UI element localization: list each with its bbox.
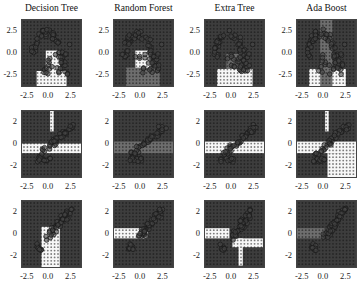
- x-tick-label: 2.5: [248, 271, 259, 281]
- y-tick-label: 2: [105, 116, 109, 126]
- x-tick-label: 0.0: [226, 271, 237, 281]
- x-tick-label: -2.5: [203, 181, 216, 191]
- classifier-plot-panel: [204, 110, 265, 178]
- x-tick-label: 2.5: [157, 90, 168, 100]
- x-tick-label: 2.5: [340, 90, 351, 100]
- y-tick-label: 2: [288, 116, 292, 126]
- column-title: Extra Tree: [190, 3, 280, 13]
- x-tick-label: 0.0: [135, 90, 146, 100]
- y-tick-label: 2: [196, 116, 200, 126]
- x-tick-label: -2.5: [295, 90, 308, 100]
- classifier-plot-panel: [21, 19, 82, 87]
- y-tick-label: 2: [105, 206, 109, 216]
- x-tick-label: 0.0: [226, 90, 237, 100]
- x-tick-label: -2.5: [112, 90, 125, 100]
- x-tick-label: -2.5: [20, 90, 33, 100]
- x-tick-label: 2.5: [248, 90, 259, 100]
- x-tick-label: 2.5: [65, 90, 76, 100]
- y-tick-label: 2.5: [98, 25, 109, 35]
- x-tick-label: 0.0: [318, 271, 329, 281]
- x-tick-label: 2.5: [157, 181, 168, 191]
- column-title: Decision Tree: [7, 3, 97, 13]
- classifier-plot-panel: [296, 110, 357, 178]
- y-tick-label: 2.5: [6, 25, 17, 35]
- y-tick-label: 0: [105, 228, 109, 238]
- classifier-plot-panel: [204, 19, 265, 87]
- y-tick-label: 0: [288, 228, 292, 238]
- y-tick-label: -2: [102, 160, 109, 170]
- y-tick-label: 2: [288, 206, 292, 216]
- x-tick-label: -2.5: [112, 271, 125, 281]
- x-tick-label: 2.5: [157, 271, 168, 281]
- classifier-plot-panel: [21, 110, 82, 178]
- x-tick-label: 0.0: [226, 181, 237, 191]
- x-tick-label: 0.0: [318, 90, 329, 100]
- x-tick-label: -2.5: [295, 271, 308, 281]
- y-tick-label: -2: [193, 160, 200, 170]
- x-tick-label: 2.5: [65, 181, 76, 191]
- x-tick-label: 0.0: [43, 181, 54, 191]
- y-tick-label: 0: [105, 138, 109, 148]
- y-tick-label: -2: [285, 250, 292, 260]
- x-tick-label: 2.5: [248, 181, 259, 191]
- y-tick-label: 0.0: [189, 47, 200, 57]
- x-tick-label: 2.5: [340, 181, 351, 191]
- classifier-plot-panel: [113, 19, 174, 87]
- x-tick-label: 2.5: [340, 271, 351, 281]
- y-tick-label: 0.0: [6, 47, 17, 57]
- y-tick-label: -2: [193, 250, 200, 260]
- x-tick-label: -2.5: [203, 271, 216, 281]
- y-tick-label: -2.5: [279, 69, 292, 79]
- x-tick-label: 2.5: [65, 271, 76, 281]
- x-tick-label: 0.0: [43, 271, 54, 281]
- y-tick-label: 2.5: [281, 25, 292, 35]
- y-tick-label: 0.0: [281, 47, 292, 57]
- classifier-plot-panel: [113, 200, 174, 268]
- y-tick-label: -2.5: [187, 69, 200, 79]
- y-tick-label: -2.5: [4, 69, 17, 79]
- y-tick-label: -2: [102, 250, 109, 260]
- y-tick-label: 2: [13, 116, 17, 126]
- y-tick-label: 0: [196, 228, 200, 238]
- y-tick-label: 0: [13, 228, 17, 238]
- y-tick-label: 2.5: [189, 25, 200, 35]
- y-tick-label: 2: [196, 206, 200, 216]
- x-tick-label: -2.5: [203, 90, 216, 100]
- figure: Decision TreeRandom ForestExtra TreeAda …: [0, 0, 364, 291]
- y-tick-label: -2.5: [96, 69, 109, 79]
- y-tick-label: 2: [13, 206, 17, 216]
- y-tick-label: -2: [10, 160, 17, 170]
- y-tick-label: 0: [13, 138, 17, 148]
- classifier-plot-panel: [296, 19, 357, 87]
- x-tick-label: 0.0: [43, 90, 54, 100]
- y-tick-label: -2: [10, 250, 17, 260]
- x-tick-label: 0.0: [135, 271, 146, 281]
- y-tick-label: -2: [285, 160, 292, 170]
- classifier-plot-panel: [296, 200, 357, 268]
- x-tick-label: 0.0: [135, 181, 146, 191]
- column-title: Ada Boost: [282, 3, 364, 13]
- x-tick-label: -2.5: [20, 181, 33, 191]
- x-tick-label: -2.5: [112, 181, 125, 191]
- classifier-plot-panel: [204, 200, 265, 268]
- classifier-plot-panel: [21, 200, 82, 268]
- y-tick-label: 0: [288, 138, 292, 148]
- x-tick-label: -2.5: [20, 271, 33, 281]
- x-tick-label: -2.5: [295, 181, 308, 191]
- y-tick-label: 0.0: [98, 47, 109, 57]
- column-title: Random Forest: [99, 3, 189, 13]
- classifier-plot-panel: [113, 110, 174, 178]
- x-tick-label: 0.0: [318, 181, 329, 191]
- y-tick-label: 0: [196, 138, 200, 148]
